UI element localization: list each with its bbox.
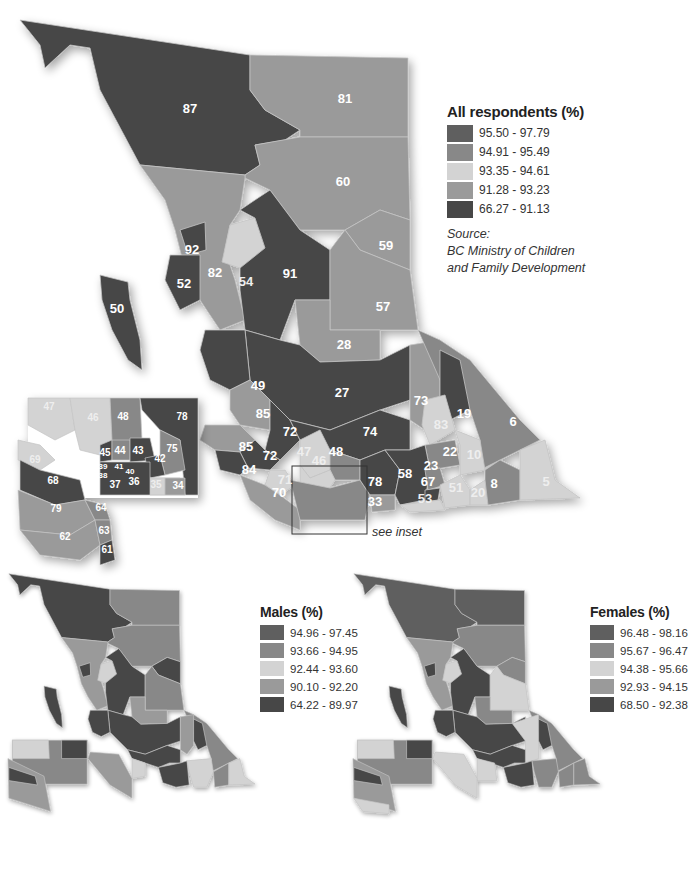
legend-row: 94.38 - 95.66 (590, 660, 688, 677)
legend-range: 66.27 - 91.13 (479, 202, 550, 216)
inset-label-61: 61 (101, 544, 113, 555)
label-85-lower: 85 (239, 439, 253, 454)
legend-swatch (447, 163, 473, 180)
label-27: 27 (335, 385, 349, 400)
label-72-upper: 72 (283, 424, 297, 439)
legend-row: 93.66 - 94.95 (260, 642, 358, 659)
legend-swatch (260, 661, 284, 676)
legend-swatch (260, 697, 284, 712)
label-23: 23 (424, 458, 438, 473)
inset-map (18, 398, 198, 565)
legend-title: All respondents (%) (447, 103, 585, 120)
label-78: 78 (368, 474, 382, 489)
source-line-2: and Family Development (447, 260, 585, 277)
legend-swatch (590, 661, 614, 676)
legend-range: 94.91 - 95.49 (479, 145, 550, 159)
label-67: 67 (421, 474, 435, 489)
inset-label-47: 47 (43, 401, 55, 412)
see-inset-label: see inset (372, 525, 422, 539)
region-49 (200, 330, 250, 390)
label-70: 70 (272, 485, 286, 500)
inset-label-69: 69 (29, 454, 41, 465)
legend-row: 90.10 - 92.20 (260, 678, 358, 695)
label-52: 52 (177, 276, 191, 291)
legend-range: 68.50 - 92.38 (620, 699, 688, 711)
label-33: 33 (368, 494, 382, 509)
legend-row: 92.93 - 94.15 (590, 678, 688, 695)
label-59: 59 (379, 238, 393, 253)
inset-label-79: 79 (50, 503, 62, 514)
legend-row: 96.48 - 98.16 (590, 624, 688, 641)
legend-swatch (590, 625, 614, 640)
inset-label-36: 36 (128, 476, 140, 487)
label-57: 57 (376, 299, 390, 314)
source-line-1: BC Ministry of Children (447, 243, 585, 260)
legend-range: 92.44 - 93.60 (290, 663, 358, 675)
inset-label-75: 75 (166, 443, 178, 454)
inset-label-46: 46 (87, 412, 99, 423)
legend-title: Males (%) (260, 604, 358, 620)
inset-label-40: 40 (126, 467, 135, 476)
label-20: 20 (471, 485, 485, 500)
inset-label-63: 63 (98, 525, 110, 536)
legend-range: 95.50 - 97.79 (479, 126, 550, 140)
legend-swatch (260, 679, 284, 694)
inset-label-48: 48 (117, 411, 129, 422)
region-50 (100, 275, 142, 370)
label-73: 73 (414, 393, 428, 408)
legend-row: 93.35 - 94.61 (447, 162, 585, 180)
legend-swatch (447, 201, 473, 218)
legend-swatch (260, 643, 284, 658)
inset-label-62: 62 (59, 531, 71, 542)
label-74: 74 (363, 424, 378, 439)
legend-swatch (447, 182, 473, 199)
legend-females: Females (%) 96.48 - 98.16 95.67 - 96.47 … (590, 604, 688, 714)
label-22: 22 (443, 444, 457, 459)
label-91: 91 (283, 266, 297, 281)
legend-row: 95.50 - 97.79 (447, 124, 585, 142)
legend-range: 91.28 - 93.23 (479, 183, 550, 197)
legend-row: 95.67 - 96.47 (590, 642, 688, 659)
inset-label-78: 78 (176, 411, 188, 422)
label-47: 47 (297, 444, 311, 459)
legend-range: 96.48 - 98.16 (620, 627, 688, 639)
legend-males: Males (%) 94.96 - 97.45 93.66 - 94.95 92… (260, 604, 358, 714)
label-46: 46 (312, 453, 326, 468)
legend-all-respondents: All respondents (%) 95.50 - 97.79 94.91 … (447, 103, 585, 277)
inset-label-35: 35 (150, 479, 162, 490)
label-84: 84 (242, 462, 257, 477)
legend-row: 64.22 - 89.97 (260, 696, 358, 713)
label-50: 50 (110, 301, 124, 316)
legend-title: Females (%) (590, 604, 688, 620)
label-87: 87 (183, 101, 197, 116)
legend-range: 95.67 - 96.47 (620, 645, 688, 657)
label-49: 49 (251, 378, 265, 393)
legend-swatch (447, 125, 473, 142)
legend-swatch (590, 679, 614, 694)
legend-swatch (447, 144, 473, 161)
label-85-upper: 85 (256, 406, 270, 421)
legend-range: 90.10 - 92.20 (290, 681, 358, 693)
label-83: 83 (434, 417, 448, 432)
label-92: 92 (185, 242, 199, 257)
inset-label-64: 64 (95, 502, 107, 513)
bc-choropleth-maps: 87 81 60 59 57 92 82 54 91 52 50 28 27 4… (0, 0, 695, 893)
inset-label-38: 38 (99, 471, 108, 480)
legend-row: 91.28 - 93.23 (447, 181, 585, 199)
legend-range: 93.35 - 94.61 (479, 164, 550, 178)
legend-swatch (260, 625, 284, 640)
legend-range: 64.22 - 89.97 (290, 699, 358, 711)
label-54: 54 (239, 274, 254, 289)
legend-row: 94.91 - 95.49 (447, 143, 585, 161)
inset-label-34: 34 (172, 480, 184, 491)
label-51: 51 (449, 480, 463, 495)
label-28: 28 (337, 337, 351, 352)
legend-row: 92.44 - 93.60 (260, 660, 358, 677)
label-60: 60 (336, 174, 350, 189)
legend-swatch (590, 643, 614, 658)
inset-label-37: 37 (109, 479, 121, 490)
label-10: 10 (467, 447, 481, 462)
region-5 (520, 440, 580, 500)
label-5: 5 (542, 474, 549, 489)
label-8: 8 (490, 476, 497, 491)
